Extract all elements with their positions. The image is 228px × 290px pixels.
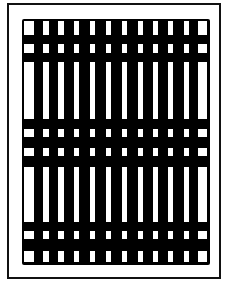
white-cell	[74, 167, 79, 222]
white-cell	[184, 21, 189, 35]
black-grid-block	[22, 19, 210, 265]
white-cell	[74, 231, 79, 239]
white-cell	[24, 167, 34, 222]
white-cell	[153, 129, 158, 137]
white-cell	[122, 21, 127, 35]
white-cell	[43, 21, 49, 35]
white-cell	[90, 62, 95, 119]
white-cell	[122, 148, 127, 156]
white-cell	[58, 44, 64, 53]
white-cell	[184, 62, 189, 119]
white-cell	[90, 21, 95, 35]
white-cell	[74, 148, 79, 156]
white-cell	[24, 129, 34, 137]
white-cell	[24, 231, 34, 239]
white-cell	[153, 148, 158, 156]
white-cell	[198, 62, 207, 119]
white-cell	[184, 251, 189, 262]
white-cell	[58, 62, 64, 119]
white-cell	[43, 129, 49, 137]
white-cell	[90, 44, 95, 53]
white-cell	[168, 251, 173, 262]
white-cell	[74, 44, 79, 53]
white-cell	[106, 62, 111, 119]
white-cell	[24, 148, 34, 156]
white-cell	[198, 21, 207, 35]
white-cell	[168, 129, 173, 137]
white-cell	[58, 167, 64, 222]
white-cell	[138, 148, 143, 156]
white-cell	[90, 167, 95, 222]
white-cell	[153, 62, 158, 119]
white-cell	[198, 129, 207, 137]
white-cell	[138, 21, 143, 35]
white-cell	[153, 231, 158, 239]
white-cell	[184, 167, 189, 222]
white-cell	[122, 167, 127, 222]
white-cell	[58, 251, 64, 262]
white-cell	[184, 129, 189, 137]
white-cell	[24, 251, 34, 262]
white-cell	[43, 251, 49, 262]
white-cell	[122, 62, 127, 119]
white-cell	[58, 148, 64, 156]
white-cell	[122, 231, 127, 239]
white-cell	[106, 251, 111, 262]
white-cell	[43, 148, 49, 156]
white-cell	[198, 44, 207, 53]
white-cell	[24, 62, 34, 119]
white-cell	[153, 21, 158, 35]
white-cell	[138, 231, 143, 239]
white-cell	[168, 231, 173, 239]
white-cell	[153, 167, 158, 222]
white-cell	[106, 231, 111, 239]
white-cell	[198, 148, 207, 156]
white-cell	[198, 251, 207, 262]
white-cell	[106, 148, 111, 156]
white-cell	[90, 148, 95, 156]
white-cell	[43, 167, 49, 222]
white-cell	[184, 148, 189, 156]
white-cell	[24, 21, 34, 35]
white-cell	[74, 21, 79, 35]
white-cell	[198, 167, 207, 222]
white-cell	[106, 21, 111, 35]
white-cell	[168, 21, 173, 35]
white-cell	[168, 62, 173, 119]
white-cell	[138, 129, 143, 137]
white-cell	[153, 44, 158, 53]
white-cell	[58, 21, 64, 35]
white-cell	[24, 44, 34, 53]
white-cell	[74, 62, 79, 119]
white-cell	[90, 129, 95, 137]
white-cell	[168, 44, 173, 53]
white-cell	[90, 231, 95, 239]
white-cell	[106, 129, 111, 137]
white-cell	[43, 62, 49, 119]
white-cell	[168, 148, 173, 156]
white-cell	[58, 231, 64, 239]
white-cell	[58, 129, 64, 137]
white-cell	[106, 44, 111, 53]
white-cell	[122, 251, 127, 262]
white-cell	[138, 44, 143, 53]
white-cell	[43, 44, 49, 53]
white-cell	[106, 167, 111, 222]
white-cell	[153, 251, 158, 262]
white-cell	[74, 251, 79, 262]
white-cell	[138, 167, 143, 222]
white-cell	[184, 231, 189, 239]
white-cell	[198, 231, 207, 239]
white-cell	[43, 231, 49, 239]
white-cell	[122, 129, 127, 137]
white-cell	[168, 167, 173, 222]
white-cell	[74, 129, 79, 137]
white-cell	[90, 251, 95, 262]
white-cell	[184, 44, 189, 53]
white-cell	[138, 62, 143, 119]
white-cell	[138, 251, 143, 262]
white-cell	[122, 44, 127, 53]
